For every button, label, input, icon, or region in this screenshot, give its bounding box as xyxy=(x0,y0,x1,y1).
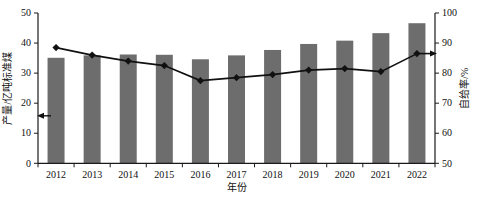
bar-2018 xyxy=(264,50,281,163)
bar-2022 xyxy=(408,23,425,163)
x-tick-label-2015: 2015 xyxy=(154,169,174,180)
y-right-tick-label: 50 xyxy=(442,158,452,169)
y-right-tick-label: 100 xyxy=(442,7,457,18)
y-left-tick-label: 40 xyxy=(21,37,31,48)
bar-2014 xyxy=(120,54,137,163)
y-left-tick-label: 30 xyxy=(21,67,31,78)
bar-2019 xyxy=(300,44,317,163)
diamond-marker-2012 xyxy=(52,44,59,51)
chart-svg: 0102030405050607080901002012201320142015… xyxy=(0,0,483,203)
x-axis-title: 年份 xyxy=(227,181,247,193)
energy-production-chart: 0102030405050607080901002012201320142015… xyxy=(0,0,483,203)
bar-2013 xyxy=(84,55,101,163)
x-tick-label-2013: 2013 xyxy=(82,169,102,180)
y-left-axis-title: 产量/亿吨标准煤 xyxy=(1,52,13,125)
x-tick-label-2017: 2017 xyxy=(227,169,247,180)
y-right-axis-title: 自给率/% xyxy=(458,68,470,109)
x-tick-label-2019: 2019 xyxy=(299,169,319,180)
x-tick-label-2012: 2012 xyxy=(46,169,66,180)
x-tick-label-2014: 2014 xyxy=(118,169,138,180)
bar-2012 xyxy=(48,58,65,164)
x-tick-label-2020: 2020 xyxy=(335,169,355,180)
x-tick-label-2018: 2018 xyxy=(263,169,283,180)
bar-2017 xyxy=(228,55,245,163)
y-left-tick-label: 50 xyxy=(21,7,31,18)
x-tick-label-2016: 2016 xyxy=(190,169,210,180)
y-right-tick-label: 60 xyxy=(442,127,452,138)
y-left-tick-label: 20 xyxy=(21,97,31,108)
x-tick-label-2022: 2022 xyxy=(407,169,427,180)
y-right-tick-label: 90 xyxy=(442,37,452,48)
bar-2015 xyxy=(156,55,173,164)
y-left-tick-label: 0 xyxy=(26,158,31,169)
bar-2021 xyxy=(372,33,389,163)
y-left-tick-label: 10 xyxy=(21,127,31,138)
y-right-tick-label: 80 xyxy=(442,67,452,78)
bar-2016 xyxy=(192,59,209,163)
x-tick-label-2021: 2021 xyxy=(371,169,391,180)
bar-2020 xyxy=(336,41,353,164)
right-axis-arrow xyxy=(430,51,437,57)
y-right-tick-label: 70 xyxy=(442,97,452,108)
